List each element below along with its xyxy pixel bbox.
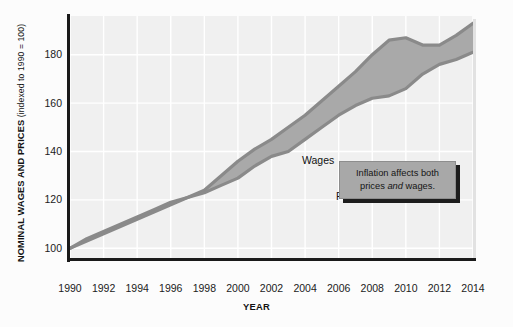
- x-axis-ticks: 1990199219941996199820002002200420062008…: [0, 283, 513, 299]
- y-tick-label: 160: [32, 98, 62, 109]
- y-axis-title-main: NOMINAL WAGES AND PRICES: [16, 120, 26, 262]
- x-axis-line: [67, 258, 476, 261]
- inflation-callout: Inflation affects bothprices and wages.: [339, 161, 456, 199]
- series-label-wages: Wages: [302, 154, 334, 166]
- y-axis-ticks: 180160140120100: [30, 0, 62, 327]
- y-tick-label: 180: [32, 49, 62, 60]
- y-axis-title-note: (indexed to 1990 = 100): [16, 24, 26, 120]
- x-axis-title: YEAR: [0, 301, 513, 312]
- callout-text: Inflation affects bothprices and wages.: [351, 167, 444, 192]
- chart-figure: NOMINAL WAGES AND PRICES (indexed to 199…: [0, 0, 513, 327]
- y-axis-line: [67, 14, 70, 262]
- x-tick-label: 2014: [451, 283, 495, 294]
- y-tick-label: 100: [32, 243, 62, 254]
- y-tick-label: 140: [32, 146, 62, 157]
- y-tick-label: 120: [32, 194, 62, 205]
- plot-area: Wages Prices: [70, 16, 473, 258]
- chart-svg: [70, 16, 473, 258]
- y-axis-title: NOMINAL WAGES AND PRICES (indexed to 199…: [16, 18, 26, 268]
